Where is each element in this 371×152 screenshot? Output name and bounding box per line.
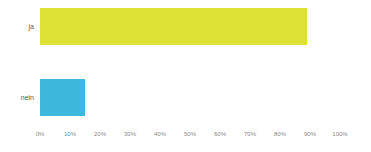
x-tick-label: 20% (94, 131, 106, 137)
x-tick-label: 60% (214, 131, 226, 137)
x-tick-label: 80% (274, 131, 286, 137)
plot-area (40, 0, 340, 128)
bar-nein[interactable] (40, 79, 85, 116)
x-tick-label: 10% (64, 131, 76, 137)
bar-ja[interactable] (40, 8, 307, 45)
bar-row-ja (40, 8, 307, 45)
category-label-nein: nein (21, 94, 34, 101)
bar-chart: ja nein 0%10%20%30%40%50%60%70%80%90%100… (0, 0, 371, 152)
x-tick-label: 0% (36, 131, 45, 137)
x-tick-label: 30% (124, 131, 136, 137)
x-tick-label: 40% (154, 131, 166, 137)
category-label-ja: ja (29, 23, 34, 30)
x-tick-label: 100% (332, 131, 347, 137)
x-tick-label: 70% (244, 131, 256, 137)
category-axis: ja nein (0, 0, 34, 128)
bar-row-nein (40, 79, 85, 116)
x-axis: 0%10%20%30%40%50%60%70%80%90%100% (40, 131, 340, 145)
x-tick-label: 50% (184, 131, 196, 137)
x-tick-label: 90% (304, 131, 316, 137)
